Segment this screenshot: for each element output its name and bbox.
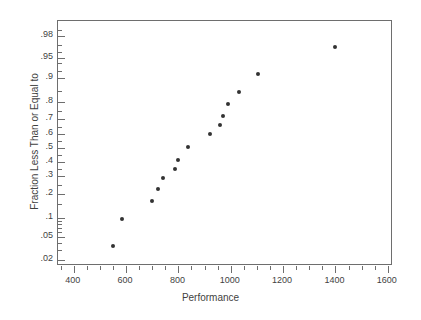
y-minor-tick-mark bbox=[58, 155, 62, 156]
y-minor-tick-mark bbox=[58, 30, 62, 31]
x-minor-tick-mark bbox=[218, 266, 219, 270]
x-minor-tick-mark bbox=[152, 266, 153, 270]
x-minor-tick-mark bbox=[349, 266, 350, 270]
x-tick-label: 800 bbox=[170, 276, 185, 285]
data-point bbox=[173, 167, 177, 171]
y-tick-mark bbox=[58, 58, 65, 59]
x-tick-mark bbox=[178, 266, 179, 273]
y-tick-label: .02 bbox=[40, 254, 53, 263]
x-tick-label: 400 bbox=[65, 276, 80, 285]
data-point bbox=[218, 123, 222, 127]
y-tick-label: .05 bbox=[40, 231, 53, 240]
y-minor-tick-mark bbox=[58, 243, 62, 244]
y-minor-tick-mark bbox=[58, 204, 62, 205]
x-tick-mark bbox=[126, 266, 127, 273]
x-minor-tick-mark bbox=[270, 266, 271, 270]
x-tick-label: 1200 bbox=[272, 276, 292, 285]
y-tick-label: .8 bbox=[45, 96, 53, 105]
y-axis-title: Fraction Less Than or Equal to bbox=[29, 22, 40, 262]
y-tick-mark bbox=[58, 36, 65, 37]
data-point bbox=[176, 158, 180, 162]
data-point bbox=[161, 176, 165, 180]
data-point bbox=[237, 90, 241, 94]
x-axis-title: Performance bbox=[0, 292, 421, 303]
data-point bbox=[150, 199, 154, 203]
y-minor-tick-mark bbox=[58, 221, 62, 222]
x-tick-mark bbox=[231, 266, 232, 273]
data-point bbox=[208, 132, 212, 136]
y-tick-label: .5 bbox=[45, 142, 53, 151]
data-point bbox=[120, 217, 124, 221]
y-minor-tick-mark bbox=[58, 228, 62, 229]
y-minor-tick-mark bbox=[58, 224, 62, 225]
x-tick-mark bbox=[335, 266, 336, 273]
x-minor-tick-mark bbox=[375, 266, 376, 270]
data-point bbox=[226, 102, 230, 106]
y-minor-tick-mark bbox=[58, 45, 62, 46]
y-tick-mark bbox=[58, 148, 65, 149]
normal-probability-plot-figure: Fraction Less Than or Equal to .02.05.1.… bbox=[0, 0, 421, 320]
x-minor-tick-mark bbox=[191, 266, 192, 270]
x-minor-tick-mark bbox=[244, 266, 245, 270]
y-minor-tick-mark bbox=[58, 91, 62, 92]
y-tick-label: .6 bbox=[45, 128, 53, 137]
y-minor-tick-mark bbox=[58, 52, 62, 53]
x-tick-label: 600 bbox=[118, 276, 133, 285]
data-point bbox=[186, 145, 190, 149]
x-tick-mark bbox=[388, 266, 389, 273]
data-point bbox=[221, 114, 225, 118]
x-minor-tick-mark bbox=[322, 266, 323, 270]
data-point bbox=[256, 72, 260, 76]
x-tick-label: 1000 bbox=[220, 276, 240, 285]
y-minor-tick-mark bbox=[58, 141, 62, 142]
x-minor-tick-mark bbox=[205, 266, 206, 270]
y-tick-mark bbox=[58, 102, 65, 103]
y-tick-label: .4 bbox=[45, 156, 53, 165]
y-tick-mark bbox=[58, 119, 65, 120]
x-minor-tick-mark bbox=[309, 266, 310, 270]
y-minor-tick-mark bbox=[58, 169, 62, 170]
y-tick-label: .1 bbox=[45, 212, 53, 221]
y-tick-label: .3 bbox=[45, 170, 53, 179]
x-minor-tick-mark bbox=[139, 266, 140, 270]
data-point bbox=[333, 45, 337, 49]
y-tick-mark bbox=[58, 134, 65, 135]
x-minor-tick-mark bbox=[362, 266, 363, 270]
x-tick-mark bbox=[74, 266, 75, 273]
y-tick-mark bbox=[58, 260, 65, 261]
y-minor-tick-mark bbox=[58, 63, 62, 64]
data-point bbox=[111, 244, 115, 248]
y-tick-label: .98 bbox=[40, 30, 53, 39]
y-minor-tick-mark bbox=[58, 250, 62, 251]
x-minor-tick-mark bbox=[61, 266, 62, 270]
y-minor-tick-mark bbox=[58, 71, 62, 72]
y-minor-tick-mark bbox=[58, 111, 62, 112]
x-minor-tick-mark bbox=[87, 266, 88, 270]
x-minor-tick-mark bbox=[113, 266, 114, 270]
y-tick-label: .95 bbox=[40, 52, 53, 61]
y-tick-mark bbox=[58, 237, 65, 238]
y-minor-tick-mark bbox=[58, 185, 62, 186]
y-tick-mark bbox=[58, 218, 65, 219]
y-tick-label: .9 bbox=[45, 72, 53, 81]
x-tick-mark bbox=[283, 266, 284, 273]
x-tick-label: 1400 bbox=[324, 276, 344, 285]
x-tick-label: 1600 bbox=[377, 276, 397, 285]
x-minor-tick-mark bbox=[296, 266, 297, 270]
y-tick-mark bbox=[58, 78, 65, 79]
x-minor-tick-mark bbox=[100, 266, 101, 270]
y-tick-label: .7 bbox=[45, 113, 53, 122]
y-tick-mark bbox=[58, 194, 65, 195]
y-tick-mark bbox=[58, 176, 65, 177]
data-point bbox=[156, 187, 160, 191]
plot-area bbox=[57, 20, 392, 265]
y-minor-tick-mark bbox=[58, 232, 62, 233]
x-minor-tick-mark bbox=[257, 266, 258, 270]
y-minor-tick-mark bbox=[58, 127, 62, 128]
y-tick-label: .2 bbox=[45, 188, 53, 197]
y-tick-mark bbox=[58, 162, 65, 163]
x-minor-tick-mark bbox=[165, 266, 166, 270]
